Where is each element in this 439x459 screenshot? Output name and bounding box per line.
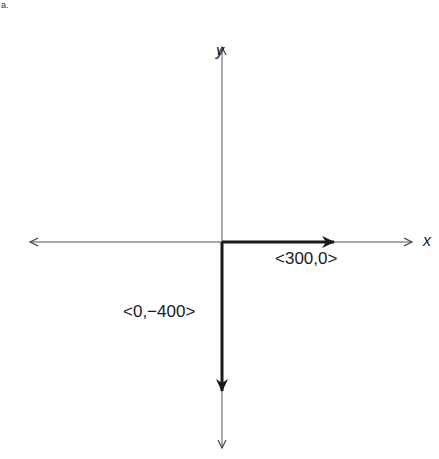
vector-diagram [0,0,439,459]
y-axis-label: y [216,42,224,60]
vector-label-300-0: <300,0> [275,249,337,269]
x-axis-label: x [423,232,431,250]
vector-label-0-neg400: <0,−400> [123,302,195,322]
